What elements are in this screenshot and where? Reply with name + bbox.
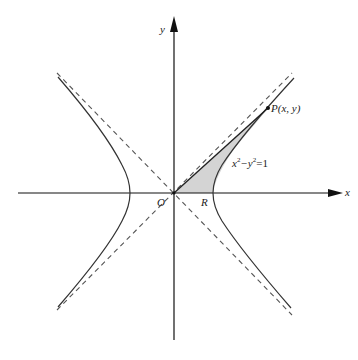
x-axis-label: x <box>345 187 350 198</box>
equation-label: x2−y2=1 <box>232 157 268 169</box>
origin-label: O <box>157 197 165 208</box>
y-axis-arrow-icon <box>170 16 178 32</box>
hyperbola-diagram <box>0 0 358 360</box>
vertex-r-label: R <box>201 197 208 208</box>
point-p-label: P(x, y) <box>271 103 300 114</box>
y-axis-label: y <box>160 24 165 35</box>
equation-minus-y: −y <box>240 157 252 169</box>
hyperbola-left-branch <box>58 77 130 307</box>
equation-equals: =1 <box>256 157 268 169</box>
origin-point <box>172 191 175 194</box>
segment-op <box>174 108 268 193</box>
x-axis-arrow-icon <box>328 189 343 197</box>
point-p <box>266 106 270 110</box>
